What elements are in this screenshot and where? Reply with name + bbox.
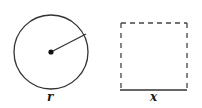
radius-label: r [47,90,55,104]
center-dot [48,49,53,54]
radius-line [51,34,86,52]
diagram-canvas: r x [0,0,202,108]
circle-figure: r [14,15,88,104]
side-label: x [149,90,158,104]
square-figure: x [120,23,187,104]
